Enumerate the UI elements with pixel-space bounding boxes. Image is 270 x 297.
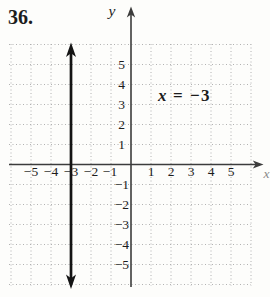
y-tick-label: −5 (115, 257, 130, 272)
y-tick-label: −4 (115, 237, 130, 252)
x-tick-label: −4 (44, 164, 59, 179)
y-tick-label: 5 (118, 57, 125, 72)
equation-variable: x (157, 86, 168, 105)
x-tick-label: 1 (148, 164, 155, 179)
x-tick-label: 5 (228, 164, 235, 179)
y-tick-label: 1 (118, 137, 125, 152)
problem-number: 36. (8, 6, 33, 28)
y-axis-label: y (107, 2, 116, 19)
equation-label: x = −3 (157, 86, 211, 105)
x-tick-label: −2 (84, 164, 98, 179)
axes (9, 13, 259, 287)
coordinate-plane-figure: −5 −4 −3 −2 −1 1 2 3 4 5 5 4 3 2 1 −1 −2… (0, 0, 270, 297)
x-tick-label: 2 (168, 164, 175, 179)
x-tick-label: 3 (188, 164, 195, 179)
y-tick-label: 4 (118, 77, 125, 92)
y-tick-label: 2 (118, 117, 125, 132)
y-tick-label: −1 (115, 177, 129, 192)
x-tick-label: −3 (64, 164, 79, 179)
y-tick-label: −2 (115, 197, 129, 212)
equation-value: = −3 (173, 86, 211, 105)
y-tick-label: 3 (118, 97, 125, 112)
x-tick-label: −5 (24, 164, 39, 179)
x-axis-label: x (263, 166, 270, 181)
x-tick-label: 4 (208, 164, 215, 179)
y-tick-label: −3 (115, 217, 130, 232)
x-tick-labels: −5 −4 −3 −2 −1 1 2 3 4 5 (24, 164, 235, 179)
textbook-figure-page: −5 −4 −3 −2 −1 1 2 3 4 5 5 4 3 2 1 −1 −2… (0, 0, 270, 297)
